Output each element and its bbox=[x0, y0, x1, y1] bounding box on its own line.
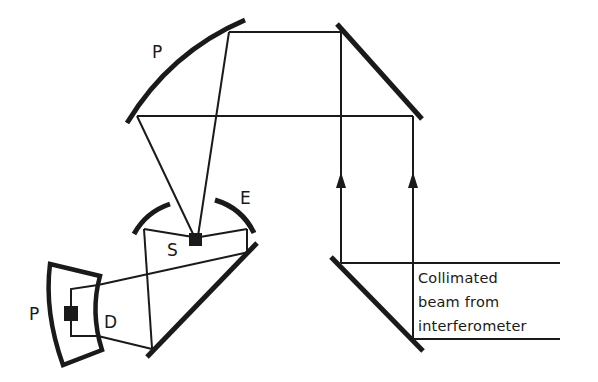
ray bbox=[200, 229, 247, 237]
ray bbox=[144, 229, 193, 237]
caption-collimated-beam: Collimated beam from interferometer bbox=[418, 266, 527, 338]
detector-element bbox=[64, 306, 78, 321]
arrow-up-icon bbox=[408, 172, 418, 188]
label-detector: D bbox=[104, 314, 117, 331]
ray bbox=[98, 336, 152, 349]
arrow-up-icon bbox=[336, 172, 346, 188]
caption-line: beam from bbox=[418, 290, 527, 314]
flat-mirror-source bbox=[147, 243, 257, 357]
flat-mirror-bottom-right bbox=[331, 257, 423, 351]
label-ellipsoid: E bbox=[240, 190, 251, 207]
source-element bbox=[189, 233, 202, 246]
label-paraboloid-top: P bbox=[152, 44, 162, 61]
paraboloid-mirror-top bbox=[127, 20, 245, 123]
label-source: S bbox=[167, 242, 178, 259]
label-paraboloid-detector: P bbox=[29, 306, 39, 323]
flat-mirror-top-right bbox=[337, 24, 422, 119]
caption-line: Collimated bbox=[418, 266, 527, 290]
caption-line: interferometer bbox=[418, 314, 527, 338]
ray bbox=[144, 229, 152, 348]
